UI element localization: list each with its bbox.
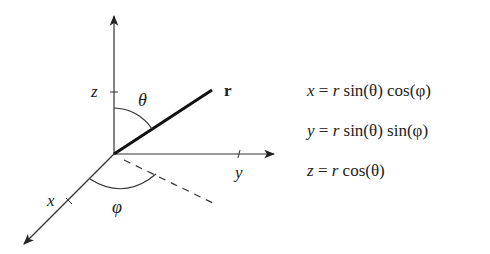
equation-x: x = r sin(θ) cos(φ): [307, 81, 431, 101]
equation-z: z = r cos(θ): [307, 161, 385, 181]
projection-line: [124, 160, 213, 203]
r-vector: [114, 90, 212, 154]
phi-arc: [90, 174, 156, 189]
z-axis-label: z: [90, 82, 98, 101]
y-axis-label: y: [233, 163, 243, 182]
x-axis: [24, 154, 114, 244]
equation-y: y = r sin(θ) sin(φ): [307, 121, 428, 141]
r-vector-label: r: [224, 81, 232, 100]
theta-arc: [114, 108, 152, 129]
theta-label: θ: [138, 90, 147, 110]
x-axis-label: x: [46, 191, 55, 210]
phi-label: φ: [112, 197, 122, 217]
